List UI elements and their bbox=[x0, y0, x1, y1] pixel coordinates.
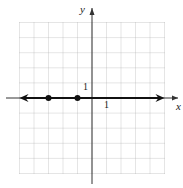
x-tick-label: 1 bbox=[104, 99, 109, 110]
coordinate-plane: x y 1 1 bbox=[0, 0, 183, 188]
y-axis-label: y bbox=[79, 3, 85, 15]
y-axis-arrow-icon bbox=[90, 8, 95, 15]
data-point bbox=[46, 95, 52, 101]
data-point bbox=[75, 95, 81, 101]
x-axis-label: x bbox=[175, 100, 181, 112]
y-tick-label: 1 bbox=[83, 81, 88, 92]
